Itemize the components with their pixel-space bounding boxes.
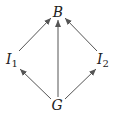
node-g: G xyxy=(51,98,62,112)
node-b: B xyxy=(53,5,63,19)
node-i2: I2 xyxy=(97,52,109,69)
edge-i1-to-b xyxy=(19,18,51,51)
edge-g-to-i2 xyxy=(65,69,96,99)
node-i1: I1 xyxy=(6,52,18,69)
edge-i2-to-b xyxy=(65,18,97,51)
edge-g-to-i1 xyxy=(20,69,51,99)
